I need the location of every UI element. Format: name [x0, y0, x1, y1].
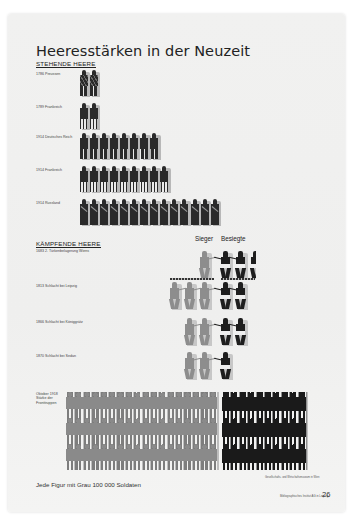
soldier-icon	[89, 133, 99, 160]
victor-soldier-icon	[150, 418, 158, 444]
soldier-icon	[89, 103, 99, 130]
soldier-icon	[150, 199, 160, 226]
victor-soldier-icon	[192, 392, 200, 418]
soldier-icon	[79, 166, 89, 193]
battle-label: 1866 Schlacht bei Königgrätz	[36, 320, 126, 324]
soldier-icon	[89, 199, 99, 226]
soldier-icon	[119, 133, 129, 160]
defeated-soldier-icon	[272, 392, 280, 418]
soldier-icon	[109, 199, 119, 226]
standing-row-figures	[79, 103, 99, 130]
victor-soldier-icon	[125, 392, 133, 418]
ww1-label: Oktober 1918 Stärke der Fronttruppen	[36, 392, 62, 405]
standing-row-figures	[79, 133, 160, 160]
defeated-soldier-icon	[281, 418, 289, 444]
defeated-soldier-icon	[264, 418, 272, 444]
victor-soldier-icon	[74, 444, 82, 470]
victor-soldier-icon	[158, 392, 166, 418]
victor-soldier-icon	[198, 251, 212, 279]
standing-row-label: 1786 Preussen	[36, 72, 76, 76]
defeated-soldier-icon	[289, 392, 297, 418]
victor-soldier-icon	[116, 392, 124, 418]
victor-soldier-icon	[108, 392, 116, 418]
soldier-icon	[160, 166, 170, 193]
defeated-soldier-partial-icon	[249, 251, 256, 279]
victor-soldier-icon	[183, 282, 197, 310]
defeated-soldier-icon	[234, 251, 248, 279]
victor-soldier-icon	[200, 444, 208, 470]
victor-soldier-icon	[83, 418, 91, 444]
defeated-soldier-icon	[247, 392, 255, 418]
victor-soldier-icon	[100, 392, 108, 418]
ground-strip	[170, 278, 214, 280]
soldier-icon	[140, 199, 150, 226]
legend-victor: Sieger	[195, 235, 213, 242]
soldier-icon	[180, 199, 190, 226]
victor-soldier-icon	[175, 392, 183, 418]
victor-soldier-icon	[100, 418, 108, 444]
chart-title: Heeresstärken in der Neuzeit	[36, 43, 250, 59]
defeated-soldier-icon	[219, 318, 233, 346]
victor-soldier-icon	[150, 392, 158, 418]
ground-strip	[221, 278, 255, 280]
defeated-soldier-icon	[219, 282, 233, 310]
ww1-victor-grid	[66, 392, 217, 470]
victor-soldier-icon	[125, 444, 133, 470]
defeated-soldier-icon	[222, 392, 230, 418]
standing-row-label: 1789 Frankreich	[36, 105, 76, 109]
soldier-icon	[190, 199, 200, 226]
defeated-soldier-icon	[256, 418, 264, 444]
soldier-icon	[109, 133, 119, 160]
defeated-figures	[219, 251, 257, 279]
defeated-soldier-icon	[230, 444, 238, 470]
standing-row-figures	[79, 166, 170, 193]
victor-soldier-icon	[175, 418, 183, 444]
defeated-soldier-icon	[264, 444, 272, 470]
defeated-soldier-icon	[272, 444, 280, 470]
defeated-soldier-icon	[247, 418, 255, 444]
defeated-soldier-icon	[219, 352, 233, 380]
victor-soldier-icon	[167, 418, 175, 444]
victor-soldier-icon	[183, 444, 191, 470]
victor-soldier-icon	[198, 352, 212, 380]
defeated-soldier-icon	[289, 418, 297, 444]
victor-soldier-icon	[66, 392, 74, 418]
victor-soldier-icon	[74, 418, 82, 444]
defeated-figures	[219, 282, 249, 310]
soldier-icon	[150, 133, 160, 160]
section-heading-fighting: KÄMPFENDE HEERE	[36, 240, 101, 248]
victor-figures	[168, 282, 213, 310]
defeated-soldier-icon	[239, 444, 247, 470]
soldier-icon	[79, 103, 89, 130]
soldier-icon	[210, 199, 220, 226]
soldier-icon	[170, 199, 180, 226]
victor-soldier-icon	[83, 444, 91, 470]
ww1-defeated-grid	[222, 392, 306, 470]
standing-row-label: 1914 Deutsches Reich	[36, 135, 76, 139]
battle-label: 1683 2. Türkenbelagerung Wiens	[36, 249, 126, 253]
defeated-soldier-icon	[239, 418, 247, 444]
defeated-figures	[219, 352, 234, 380]
victor-figures	[183, 352, 213, 380]
victor-soldier-icon	[100, 444, 108, 470]
defeated-soldier-icon	[247, 444, 255, 470]
section-heading-standing: STEHENDE HEERE	[36, 60, 96, 68]
defeated-soldier-icon	[264, 392, 272, 418]
victor-soldier-icon	[142, 418, 150, 444]
victor-soldier-icon	[133, 392, 141, 418]
defeated-soldier-icon	[281, 444, 289, 470]
victor-soldier-icon	[133, 444, 141, 470]
defeated-soldier-icon	[230, 392, 238, 418]
defeated-soldier-icon	[234, 282, 248, 310]
soldier-icon	[89, 70, 99, 97]
victor-soldier-icon	[167, 392, 175, 418]
standing-row-figures	[79, 199, 220, 226]
soldier-icon	[89, 166, 99, 193]
defeated-soldier-icon	[219, 251, 233, 279]
defeated-soldier-icon	[298, 444, 306, 470]
victor-soldier-icon	[209, 444, 217, 470]
soldier-icon	[129, 133, 139, 160]
victor-soldier-icon	[209, 418, 217, 444]
soldier-icon	[200, 199, 210, 226]
victor-soldier-icon	[66, 418, 74, 444]
